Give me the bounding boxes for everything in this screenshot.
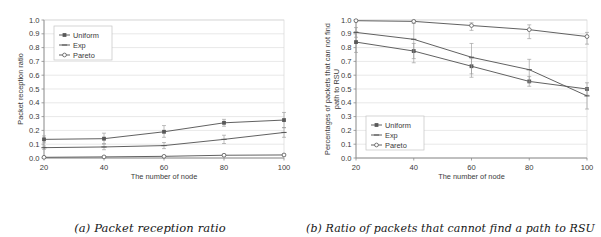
figure-container: 0.00.10.20.30.40.50.60.70.80.91.02040608… [0,0,601,237]
data-point-marker [42,155,46,159]
data-point-marker [282,118,286,122]
data-point-marker [102,137,106,141]
x-tick-label: 100 [278,163,291,172]
x-tick-label: 40 [410,163,418,172]
data-point-marker [585,35,589,39]
y-tick-label: 0.1 [341,140,352,149]
legend-label: Pareto [385,141,407,150]
y-tick-label: 0.8 [29,43,40,52]
legend-label: Exp [385,131,398,140]
x-tick-label: 20 [40,163,48,172]
legend-marker-icon [375,123,379,127]
x-tick-label: 20 [352,163,360,172]
y-tick-label: 0.6 [29,71,40,80]
x-tick-label: 60 [467,163,475,172]
y-axis-title-line1: Percentages of packets that can not find [323,23,332,155]
data-point-marker [354,19,358,23]
y-tick-label: 0.2 [29,126,40,135]
x-axis-title: The number of node [438,172,505,181]
data-point-marker [282,153,286,157]
y-tick-label: 0.7 [29,57,40,66]
caption-a: (a) Packet reception ratio [0,221,300,235]
y-tick-label: 0.2 [341,126,352,135]
x-tick-label: 60 [160,163,168,172]
x-tick-label: 80 [220,163,228,172]
y-tick-label: 0.4 [29,98,40,107]
y-axis-title: Packet reception ratio [16,53,25,124]
y-tick-label: 1.0 [341,16,352,25]
data-series-group [41,112,286,159]
y-axis-title-line2: path to RSU [332,69,341,109]
y-axis-title: Percentages of packets that can not find… [323,23,341,155]
y-axis-ticks: 0.00.10.20.30.40.50.60.70.80.91.0 [341,16,356,163]
y-axis-ticks: 0.00.10.20.30.40.50.60.70.80.91.0 [29,16,44,163]
data-point-marker [527,28,531,32]
series-pareto [354,19,589,44]
data-point-marker [470,24,474,28]
y-tick-label: 0.9 [29,29,40,38]
y-tick-label: 0.1 [29,140,40,149]
legend-label: Uniform [73,31,99,40]
data-point-marker [412,19,416,23]
y-tick-label: 0.4 [341,98,352,107]
x-tick-label: 80 [525,163,533,172]
legend-label: Pareto [73,51,95,60]
y-tick-label: 0.8 [341,43,352,52]
x-tick-label: 100 [581,163,594,172]
data-point-marker [222,153,226,157]
legend-label: Exp [73,41,86,50]
series-uniform [42,112,286,143]
x-axis-title: The number of node [131,172,198,181]
chart-panel-b: 0.00.10.20.30.40.50.60.70.80.91.02040608… [300,0,601,237]
no-path-to-rsu-chart: 0.00.10.20.30.40.50.60.70.80.91.02040608… [300,0,601,200]
data-point-marker [162,154,166,158]
y-tick-label: 0.3 [29,112,40,121]
legend: UniformExpPareto [54,26,112,60]
data-series-group [353,19,589,109]
data-point-marker [42,137,46,141]
legend-marker-icon [375,143,379,147]
x-axis-ticks: 20406080100 [40,158,291,172]
x-axis-ticks: 20406080100 [352,158,594,172]
chart-panel-a: 0.00.10.20.30.40.50.60.70.80.91.02040608… [0,0,300,237]
legend-marker-icon [63,53,67,57]
legend-marker-icon [63,33,67,37]
data-point-marker [354,40,358,44]
y-tick-label: 0.7 [341,57,352,66]
y-tick-label: 1.0 [29,16,40,25]
y-tick-label: 0.6 [341,71,352,80]
packet-reception-ratio-chart: 0.00.10.20.30.40.50.60.70.80.91.02040608… [0,0,300,200]
data-point-marker [162,130,166,134]
y-tick-label: 0.9 [341,29,352,38]
y-tick-label: 0.0 [29,154,40,163]
y-tick-label: 0.5 [29,85,40,94]
y-tick-label: 0.5 [341,85,352,94]
caption-b: (b) Ratio of packets that cannot find a … [300,222,601,235]
legend-label: Uniform [385,121,411,130]
y-axis-title-line1: Packet reception ratio [16,53,25,124]
data-point-marker [102,155,106,159]
data-point-marker [222,121,226,125]
legend: UniformExpPareto [366,116,424,150]
x-tick-label: 40 [100,163,108,172]
y-tick-label: 0.3 [341,112,352,121]
y-tick-label: 0.0 [341,154,352,163]
